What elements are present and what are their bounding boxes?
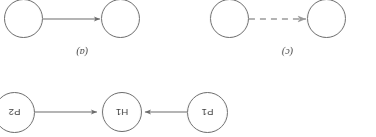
node-p2-label: P2 (8, 108, 20, 118)
node-c-left[interactable] (307, 0, 346, 38)
caption-panel-c: (c) (282, 47, 293, 58)
node-h1-label: H1 (116, 107, 129, 117)
figure-canvas: P1 H1 P2 (c) (a) (0, 0, 376, 137)
node-p1-label: P1 (201, 108, 213, 118)
node-c-right[interactable] (210, 0, 249, 38)
caption-panel-a: (a) (76, 47, 88, 58)
node-a-right[interactable] (4, 0, 43, 38)
node-p1[interactable]: P1 (187, 92, 228, 133)
node-a-left[interactable] (101, 0, 140, 38)
node-p2[interactable]: P2 (0, 92, 35, 133)
node-h1[interactable]: H1 (102, 92, 142, 132)
